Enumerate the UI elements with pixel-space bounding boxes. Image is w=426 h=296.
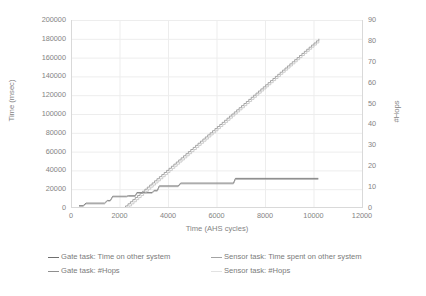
y-axis-left-tick-label: 180000 — [20, 35, 66, 43]
y-axis-right-tick-label: 50 — [368, 100, 390, 108]
y-axis-right-tick-label: 10 — [368, 183, 390, 191]
x-axis-tick-label: 4000 — [148, 211, 188, 220]
legend-line-swatch-icon — [211, 271, 222, 272]
y-axis-right-tick-label: 30 — [368, 141, 390, 149]
y-axis-right-tick-label: 20 — [368, 162, 390, 170]
y-axis-left-tick-label: 80000 — [20, 129, 66, 137]
y-axis-left-tick-label: 160000 — [20, 54, 66, 62]
chart-legend: Gate task: Time on other system Sensor t… — [48, 252, 388, 286]
y-axis-left-title: Time (msec) — [7, 66, 16, 136]
x-axis-line — [71, 207, 363, 208]
y-axis-left-tick-label: 40000 — [20, 166, 66, 174]
y-axis-left-tick-label: 20000 — [20, 185, 66, 193]
y-axis-right-tick-label: 90 — [368, 16, 390, 24]
y-axis-left-tick-label: 200000 — [20, 16, 66, 24]
x-axis-tick-label: 2000 — [100, 211, 140, 220]
x-axis-tick-label: 10000 — [294, 211, 334, 220]
plot-svg — [71, 20, 362, 208]
series-line — [123, 39, 319, 208]
chart-container: 0200004000060000800001000001200001400001… — [0, 0, 426, 296]
y-axis-left-line — [71, 20, 72, 208]
y-axis-left-tick-label: 100000 — [20, 110, 66, 118]
legend-item[interactable]: Gate task: #Hops — [48, 266, 120, 276]
x-axis-tick-label: 6000 — [197, 211, 237, 220]
x-axis-tick-label: 12000 — [342, 211, 382, 220]
legend-item-label: Sensor task: #Hops — [224, 266, 290, 276]
y-axis-left-tick-label: 60000 — [20, 148, 66, 156]
legend-item[interactable]: Sensor task: Time spent on other system — [211, 252, 362, 262]
y-axis-right-tick-label: 60 — [368, 79, 390, 87]
legend-line-swatch-icon — [48, 257, 59, 258]
legend-line-swatch-icon — [48, 271, 59, 272]
y-axis-left-tick-label: 120000 — [20, 91, 66, 99]
x-axis-tick-label: 8000 — [245, 211, 285, 220]
plot-area — [71, 20, 362, 208]
legend-line-swatch-icon — [211, 257, 222, 258]
y-axis-right-tick-label: 70 — [368, 58, 390, 66]
y-axis-left-tick-label: 140000 — [20, 72, 66, 80]
legend-item-label: Sensor task: Time spent on other system — [224, 252, 362, 262]
y-axis-right-title: #Hops — [392, 90, 401, 134]
y-axis-right-tick-label: 80 — [368, 37, 390, 45]
y-axis-right-tick-label: 40 — [368, 120, 390, 128]
legend-item-label: Gate task: #Hops — [61, 266, 120, 276]
y-axis-right-line — [362, 20, 363, 208]
legend-item[interactable]: Sensor task: #Hops — [211, 266, 290, 276]
legend-item[interactable]: Gate task: Time on other system — [48, 252, 170, 262]
x-axis-title: Time (AHS cycles) — [71, 224, 363, 233]
series-line — [79, 178, 318, 205]
legend-item-label: Gate task: Time on other system — [61, 252, 170, 262]
x-axis-tick-label: 0 — [51, 211, 91, 220]
